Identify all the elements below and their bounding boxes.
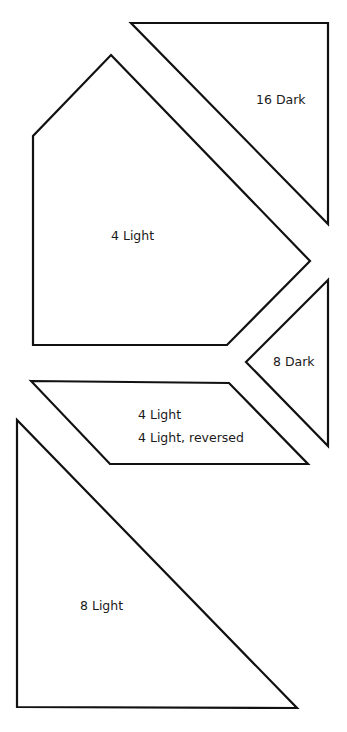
parallelogram-shape bbox=[31, 381, 308, 464]
parallelogram-piece: 4 Light 4 Light, reversed bbox=[31, 381, 308, 464]
small-triangle-label: 8 Dark bbox=[273, 354, 315, 369]
parallelogram-label-1: 4 Light bbox=[138, 407, 181, 422]
bottom-triangle-label: 8 Light bbox=[80, 598, 123, 613]
top-triangle-label: 16 Dark bbox=[256, 92, 306, 107]
pentagon-label: 4 Light bbox=[111, 228, 154, 243]
quilt-pattern-diagram: 16 Dark 4 Light 8 Dark 4 Light 4 Light, … bbox=[0, 0, 347, 732]
parallelogram-label-2: 4 Light, reversed bbox=[138, 430, 244, 445]
